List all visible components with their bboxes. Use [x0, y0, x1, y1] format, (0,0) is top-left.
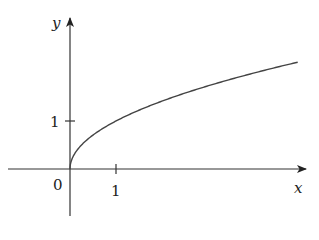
y-tick-label-1: 1 [50, 113, 60, 131]
x-axis-label: x [294, 179, 303, 197]
y-axis-label: y [51, 14, 61, 32]
x-tick-label-1: 1 [111, 182, 121, 200]
origin-label: 0 [53, 176, 63, 194]
sqrt-curve [70, 62, 298, 169]
plot-area: y x 0 1 1 [0, 0, 319, 240]
